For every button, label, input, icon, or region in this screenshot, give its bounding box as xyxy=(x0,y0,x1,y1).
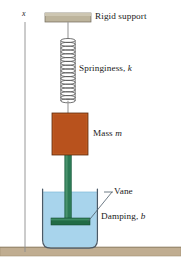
vane-label: Vane xyxy=(114,187,133,196)
mass-block-group xyxy=(52,113,88,155)
rigid-support xyxy=(45,13,91,22)
springiness-label: Springiness, k xyxy=(79,64,132,73)
damping-symbol: b xyxy=(141,211,146,221)
damped-oscillator-figure: x Rigid support Springiness, k Mass m Va… xyxy=(0,0,181,264)
spring-assembly xyxy=(61,22,75,114)
spring-coil xyxy=(61,39,75,103)
figure-canvas xyxy=(0,0,181,264)
x-axis-label: x xyxy=(22,10,26,18)
mass-symbol: m xyxy=(115,128,122,138)
connecting-rod-highlight xyxy=(66,155,68,222)
rigid-support-label: Rigid support xyxy=(95,12,147,21)
connecting-rod-group xyxy=(65,155,72,222)
damping-label: Damping, b xyxy=(101,212,145,221)
rigid-support-highlight xyxy=(45,13,91,16)
springiness-label-text: Springiness, xyxy=(79,63,128,73)
vane-bar-highlight xyxy=(51,219,90,221)
mass-label: Mass m xyxy=(93,129,122,138)
springiness-symbol: k xyxy=(128,63,132,73)
mass-label-text: Mass xyxy=(93,128,115,138)
damping-label-text: Damping, xyxy=(101,211,141,221)
mass-block xyxy=(52,113,88,155)
vane-group xyxy=(51,218,90,225)
